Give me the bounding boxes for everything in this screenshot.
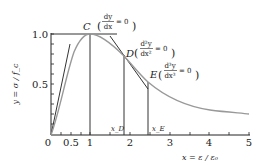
svg-text:dx²: dx² [140,50,151,58]
initial-tangent-line [51,44,70,135]
x-tick-5: 5 [246,137,252,148]
point-d-condition: ( d²y dx² = 0 ) [134,40,175,60]
x-tick-0: 0 [45,137,51,148]
svg-text:= 0: = 0 [179,67,192,75]
svg-text:(: ( [158,69,162,82]
svg-text:= 0: = 0 [155,45,168,53]
y-axis-label: y = σ / f_c [11,63,20,106]
point-e-label: E [149,69,158,80]
svg-text:): ) [195,69,199,82]
x-axis-label: x = ε / ε₀ [182,153,219,162]
x-d-marker: x_D [111,125,124,133]
svg-text:dx³: dx³ [164,72,175,80]
x-tick-1: 1 [87,137,93,148]
svg-text:d³y: d³y [164,62,175,70]
svg-text:= 0: = 0 [116,18,129,26]
x-tick-0-5: 0.5 [63,137,79,148]
point-c-label: C [83,21,91,32]
svg-text:): ) [171,47,175,60]
point-d-label: D [125,48,134,59]
svg-text:(: ( [97,20,101,33]
y-tick-0-5: 0.5 [32,79,48,90]
point-e-condition: ( d³y dx³ = 0 ) [158,62,199,82]
svg-text:dy: dy [104,13,112,21]
point-c-condition: ( dy dx = 0 ) [97,13,136,33]
x-e-marker: x_E [152,125,165,133]
svg-text:(: ( [134,47,138,60]
y-tick-1-0: 1.0 [32,29,48,40]
x-tick-4: 4 [206,137,212,148]
x-tick-3: 3 [167,137,173,148]
svg-text:dx: dx [104,23,112,31]
svg-text:d²y: d²y [140,40,151,48]
stress-strain-diagram: 0 0.5 1 2 3 4 5 0.5 1.0 x = ε / ε₀ y = σ… [0,0,264,166]
svg-text:): ) [132,20,136,33]
x-tick-2: 2 [127,137,133,148]
